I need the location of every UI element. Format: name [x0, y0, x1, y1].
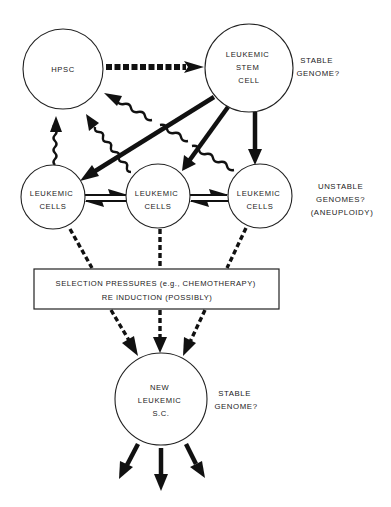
edge-cells-to-selection — [70, 228, 246, 268]
node-leukemic-cells-middle: LEUKEMIC CELLS — [126, 164, 190, 228]
edge-selection-to-new-sc — [111, 310, 205, 356]
node-hpsc-label: HPSC — [51, 65, 75, 74]
edge-hpsc-to-lsc — [106, 61, 204, 73]
node-leukemic-cells-left: LEUKEMIC CELLS — [21, 165, 85, 229]
edge-left-cells-to-hpsc — [50, 116, 62, 165]
annotation-unstable-genomes: UNSTABLE GENOMES? (ANEUPLOIDY) — [311, 182, 374, 217]
node-leukemic-stem-cell: LEUKEMIC STEM CELL — [205, 24, 293, 112]
node-hpsc: HPSC — [23, 29, 103, 109]
leukemia-stem-cell-diagram: HPSC LEUKEMIC STEM CELL LEUKEMIC CELLS L… — [0, 0, 391, 507]
edge-left-middle-reversible — [84, 189, 128, 207]
node-new-leukemic-sc: NEW LEUKEMIC S.C. — [115, 353, 207, 445]
node-leukemic-cells-right: LEUKEMIC CELLS — [228, 164, 292, 228]
edge-right-cells-to-hpsc — [104, 93, 234, 170]
annotation-bottom-stable-genome: STABLE GENOME? — [214, 389, 257, 411]
annotation-top-stable-genome: STABLE GENOME? — [296, 56, 339, 78]
edge-new-sc-outputs — [119, 444, 205, 491]
selection-pressures-box: SELECTION PRESSURES (e.g., CHEMOTHERAPY)… — [34, 269, 279, 309]
edge-lsc-to-right-cells — [248, 112, 262, 165]
edge-middle-right-reversible — [189, 189, 229, 207]
